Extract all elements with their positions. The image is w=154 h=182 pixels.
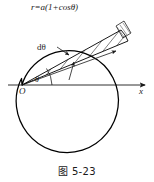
element-sector [22,13,152,119]
curve-equation-label: r=a(1+cosθ) [31,3,78,12]
origin-label: O [19,87,26,96]
x-axis-label: x [139,87,143,96]
dtheta-label: dθ [37,43,46,52]
figure-caption: 图 5-23 [0,163,154,178]
figure-container: r=a(1+cosθ) dθ θ O x 图 5-23 [0,0,154,182]
theta-angle-label: θ [35,76,39,84]
sector-hatching [30,13,152,119]
